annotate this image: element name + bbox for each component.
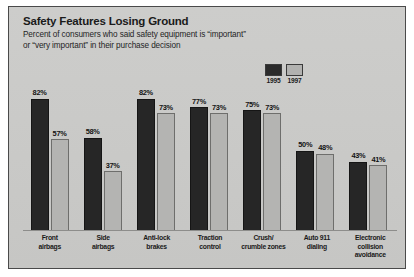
- bar-1997: [104, 171, 122, 231]
- bar-value-label: 58%: [84, 127, 102, 136]
- bar-column: 82%: [137, 59, 155, 231]
- bar-1995: [190, 107, 208, 231]
- bar-value-label: 41%: [369, 155, 387, 164]
- bar-1995: [31, 99, 49, 231]
- bar-column: 57%: [51, 59, 69, 231]
- bar-column: 73%: [157, 59, 175, 231]
- chart-subtitle: Percent of consumers who said safety equ…: [23, 30, 246, 51]
- bar-1997: [263, 113, 281, 231]
- bar-1997: [316, 154, 334, 231]
- bar-1995: [296, 151, 314, 232]
- category-label-line: collision: [344, 243, 397, 252]
- category-label: Sideairbags: [76, 234, 129, 260]
- bar-column: 37%: [104, 59, 122, 231]
- bar-value-label: 75%: [243, 100, 261, 109]
- bar-column: 73%: [263, 59, 281, 231]
- bar-column: 58%: [84, 59, 102, 231]
- bar-group: 50%48%: [289, 59, 342, 231]
- x-axis-baseline: [23, 230, 397, 231]
- bar-1997: [157, 113, 175, 231]
- category-label-line: avoidance: [344, 251, 397, 260]
- category-label-line: airbags: [23, 243, 76, 252]
- bar-group: 58%37%: [76, 59, 129, 231]
- category-label: Anti-lockbrakes: [130, 234, 183, 260]
- category-label-line: Anti-lock: [130, 234, 183, 243]
- bar-column: 48%: [316, 59, 334, 231]
- bar-1995: [243, 110, 261, 231]
- bar-group: 82%57%: [23, 59, 76, 231]
- bar-1997: [369, 165, 387, 231]
- bar-group: 82%73%: [129, 59, 182, 231]
- bar-value-label: 77%: [190, 97, 208, 106]
- chart-screenshot: Safety Features Losing Ground Percent of…: [0, 0, 414, 277]
- category-label-line: dialing: [290, 243, 343, 252]
- bar-1995: [349, 162, 367, 231]
- x-axis-category-labels: FrontairbagsSideairbagsAnti-lockbrakesTr…: [23, 234, 397, 260]
- bar-column: 41%: [369, 59, 387, 231]
- category-label-line: crumble zones: [237, 243, 290, 252]
- bar-column: 43%: [349, 59, 367, 231]
- bar-1995: [84, 138, 102, 231]
- bar-value-label: 43%: [349, 151, 367, 160]
- bar-1995: [137, 99, 155, 231]
- chart-subtitle-line-1: Percent of consumers who said safety equ…: [23, 30, 246, 41]
- bar-value-label: 50%: [296, 140, 314, 149]
- category-label: Auto 911dialing: [290, 234, 343, 260]
- bar-value-label: 82%: [137, 88, 155, 97]
- category-label-line: control: [183, 243, 236, 252]
- category-label-line: Front: [23, 234, 76, 243]
- category-label-line: Crush/: [237, 234, 290, 243]
- bar-column: 50%: [296, 59, 314, 231]
- bar-value-label: 82%: [31, 88, 49, 97]
- category-label-line: Electronic: [344, 234, 397, 243]
- chart-title: Safety Features Losing Ground: [23, 15, 188, 27]
- bar-value-label: 73%: [157, 103, 175, 112]
- bar-value-label: 73%: [210, 103, 228, 112]
- category-label-line: Side: [76, 234, 129, 243]
- bar-value-label: 57%: [51, 129, 69, 138]
- bar-1997: [51, 139, 69, 231]
- bar-value-label: 73%: [263, 103, 281, 112]
- category-label-line: Traction: [183, 234, 236, 243]
- bar-value-label: 37%: [104, 161, 122, 170]
- bar-group: 77%73%: [182, 59, 235, 231]
- category-label: Crush/crumble zones: [237, 234, 290, 260]
- bar-value-label: 48%: [316, 143, 334, 152]
- bar-column: 73%: [210, 59, 228, 231]
- chart-subtitle-line-2: or “very important” in their purchase de…: [23, 41, 246, 52]
- category-label-line: Auto 911: [290, 234, 343, 243]
- category-label: Tractioncontrol: [183, 234, 236, 260]
- category-label: Frontairbags: [23, 234, 76, 260]
- chart-frame: Safety Features Losing Ground Percent of…: [8, 6, 406, 269]
- bar-groups: 82%57%58%37%82%73%77%73%75%73%50%48%43%4…: [23, 59, 395, 231]
- plot-area: 82%57%58%37%82%73%77%73%75%73%50%48%43%4…: [23, 59, 395, 231]
- bar-column: 82%: [31, 59, 49, 231]
- category-label: Electroniccollisionavoidance: [344, 234, 397, 260]
- bar-group: 43%41%: [342, 59, 395, 231]
- category-label-line: airbags: [76, 243, 129, 252]
- bar-column: 77%: [190, 59, 208, 231]
- bar-group: 75%73%: [236, 59, 289, 231]
- bar-column: 75%: [243, 59, 261, 231]
- category-label-line: brakes: [130, 243, 183, 252]
- bar-1997: [210, 113, 228, 231]
